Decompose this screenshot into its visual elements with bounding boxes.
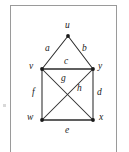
vertex-label-y: y xyxy=(98,62,102,72)
vertex-label-u: u xyxy=(65,21,70,31)
edge-label-b: b xyxy=(82,44,87,54)
figure-root: uvywxabcdefgh xyxy=(0,0,129,152)
graph-vertex-u xyxy=(66,34,70,38)
edge-label-h: h xyxy=(77,84,82,94)
graph-vertex-v xyxy=(40,67,44,71)
edge-label-c: c xyxy=(64,57,68,67)
graph-vertex-y xyxy=(91,67,95,71)
edge-label-a: a xyxy=(45,44,50,54)
graph-vertex-x xyxy=(91,118,95,122)
vertex-label-x: x xyxy=(99,113,103,123)
edge-label-e: e xyxy=(65,126,69,136)
vertex-label-w: w xyxy=(27,113,33,123)
edge-label-f: f xyxy=(32,88,35,98)
edge-label-d: d xyxy=(97,88,102,98)
graph-edge-b xyxy=(68,36,93,69)
vertex-label-v: v xyxy=(29,62,33,72)
edge-label-g: g xyxy=(61,74,66,84)
graph-vertex-w xyxy=(40,118,44,122)
